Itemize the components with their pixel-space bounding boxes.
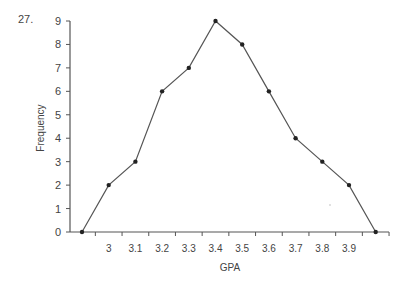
artifact-dot [329, 204, 331, 206]
data-point [187, 66, 191, 70]
y-tick-label: 2 [55, 179, 61, 191]
data-point [293, 136, 297, 140]
y-tick-label: 5 [55, 109, 61, 121]
y-tick-label: 8 [55, 38, 61, 50]
data-point [80, 230, 84, 234]
data-point [267, 89, 271, 93]
x-tick-label: 3.3 [182, 243, 196, 254]
x-tick-label: 3.1 [128, 243, 142, 254]
y-tick-label: 6 [55, 85, 61, 97]
frequency-polygon-chart: 012345678933.13.23.33.43.53.63.73.83.9 G… [0, 0, 414, 289]
x-tick-label: 3.8 [315, 243, 329, 254]
y-tick-label: 7 [55, 62, 61, 74]
y-tick-label: 0 [55, 226, 61, 238]
data-point [374, 230, 378, 234]
data-point [320, 159, 324, 163]
y-axis-label: Frequency [35, 104, 46, 151]
ticks: 012345678933.13.23.33.43.53.63.73.83.9 [55, 15, 389, 254]
data-point [347, 183, 351, 187]
axes [70, 21, 389, 232]
data-point [213, 19, 217, 23]
data-point [133, 159, 137, 163]
y-tick-label: 1 [55, 203, 61, 215]
x-tick-label: 3.4 [209, 243, 223, 254]
y-tick-label: 4 [55, 132, 61, 144]
data-point [107, 183, 111, 187]
y-tick-label: 9 [55, 15, 61, 27]
x-tick-label: 3.7 [289, 243, 303, 254]
data-point [160, 89, 164, 93]
frequency-line [82, 21, 376, 232]
x-tick-label: 3 [106, 243, 112, 254]
x-tick-label: 3.9 [342, 243, 356, 254]
data-series [80, 19, 378, 234]
x-tick-label: 3.5 [235, 243, 249, 254]
x-tick-label: 3.6 [262, 243, 276, 254]
data-point [240, 42, 244, 46]
x-axis-label: GPA [220, 262, 241, 273]
x-tick-label: 3.2 [155, 243, 169, 254]
y-tick-label: 3 [55, 156, 61, 168]
